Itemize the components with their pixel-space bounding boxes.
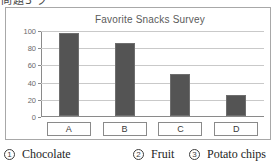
y-axis-tick-label: 20	[28, 95, 36, 104]
category-label-c: C	[158, 122, 202, 136]
bar-d	[226, 95, 246, 117]
legend-number-icon: 2	[133, 149, 144, 160]
legend: 1Chocolate2Fruit3Potato chips	[0, 145, 278, 164]
y-axis-tick-mark	[38, 117, 41, 118]
x-axis-line	[41, 116, 264, 117]
y-axis-tick-label: 40	[28, 78, 36, 87]
legend-item-3: 3Potato chips	[189, 147, 266, 162]
y-axis-tick-label: 80	[28, 44, 36, 53]
y-axis-tick-mark	[38, 65, 41, 66]
chart-frame: Favorite Snacks Survey 020406080100 ABCD	[5, 7, 271, 140]
bar-b	[115, 43, 135, 116]
cropped-text-fragment-glyphs: 問題3 グラフ	[1, 0, 46, 5]
legend-item-1: 1Chocolate	[4, 147, 71, 162]
legend-label: Potato chips	[207, 147, 266, 162]
category-label-b: B	[103, 122, 147, 136]
y-axis-tick-label: 100	[23, 27, 36, 36]
legend-item-2: 2Fruit	[133, 147, 174, 162]
cropped-text-fragment: 問題3 グラフ	[0, 0, 46, 5]
y-axis-tick-mark	[38, 100, 41, 101]
y-axis-tick-mark	[38, 83, 41, 84]
legend-label: Fruit	[151, 147, 174, 162]
bar-a	[59, 33, 79, 116]
y-axis-tick-mark	[38, 48, 41, 49]
bar-c	[170, 74, 190, 116]
legend-number-icon: 3	[189, 149, 200, 160]
y-axis-line	[41, 31, 42, 117]
legend-number-icon: 1	[4, 149, 15, 160]
y-axis-tick-mark	[38, 31, 41, 32]
y-axis-tick-label: 0	[32, 113, 36, 122]
chart-title: Favorite Snacks Survey	[6, 14, 270, 25]
category-label-d: D	[214, 122, 258, 136]
plot-area: 020406080100	[41, 31, 264, 117]
legend-label: Chocolate	[22, 147, 71, 162]
y-axis-tick-label: 60	[28, 61, 36, 70]
category-label-a: A	[47, 122, 91, 136]
